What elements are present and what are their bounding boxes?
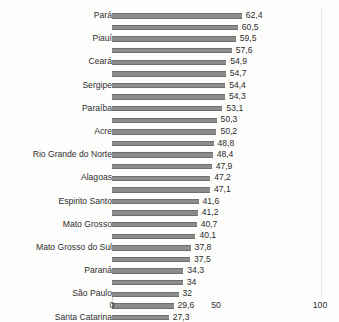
bar-fill [112, 36, 236, 41]
bar-category-label: Rio Grande do Norte [0, 149, 112, 161]
x-axis-tick-label: 50 [201, 300, 231, 310]
bar-fill [112, 106, 222, 111]
bar-row: Alagoas47,2 [0, 172, 339, 184]
bar-category-label: Paraíba [0, 103, 112, 115]
bar [112, 199, 199, 204]
bar-value-label: 37,5 [190, 254, 211, 266]
bar-value-label: 34 [183, 277, 197, 289]
bar-fill [112, 60, 226, 65]
bar [112, 106, 222, 111]
bar-value-label: 59,5 [236, 33, 257, 45]
chart-title [0, 0, 339, 5]
bar [112, 222, 197, 227]
bar-category-label: Espirito Santo [0, 196, 112, 208]
bar-row: Mato Grosso do Sul37,8 [0, 242, 339, 254]
bar [112, 13, 242, 18]
bar-category-label: Alagoas [0, 172, 112, 184]
bar-row: Espirito Santo41,6 [0, 196, 339, 208]
bar-category-label: São Paulo [0, 288, 112, 300]
bar-fill [112, 25, 238, 30]
bar [112, 83, 225, 88]
bar-value-label: 40,7 [197, 219, 218, 231]
bar-row: Paraíba53,1 [0, 103, 339, 115]
bar [112, 176, 210, 181]
x-axis-tick-label: 100 [305, 300, 335, 310]
bar-fill [112, 83, 225, 88]
bar-fill [112, 141, 214, 146]
bar-row: 60,5 [0, 22, 339, 34]
bar-row: 29,6 [0, 300, 339, 312]
bar-fill [112, 257, 190, 262]
bar-value-label: 47,2 [210, 172, 231, 184]
bar-row: 50,3 [0, 114, 339, 126]
bar-category-label: Sergipe [0, 80, 112, 92]
bar-fill [112, 118, 217, 123]
bar-value-label: 53,1 [222, 103, 243, 115]
bar-category-label: Ceará [0, 56, 112, 68]
bar-row: 57,6 [0, 45, 339, 57]
bar-row: Pará62,4 [0, 10, 339, 22]
bar [112, 129, 216, 134]
bar-row: Piauí59,5 [0, 33, 339, 45]
bar-row: 54,3 [0, 91, 339, 103]
bar [112, 152, 213, 157]
bar-fill [112, 268, 183, 273]
bar [112, 245, 191, 250]
bar-fill [112, 176, 210, 181]
bar-row: 48,8 [0, 138, 339, 150]
bar [112, 36, 236, 41]
bar-chart: Pará62,460,5Piauí59,557,6Ceará54,954,7Se… [0, 0, 339, 322]
bar [112, 292, 179, 297]
bar-fill [112, 48, 232, 53]
bar-value-label: 50,2 [216, 126, 237, 138]
bar-fill [112, 164, 212, 169]
bar-fill [112, 245, 191, 250]
bar [112, 164, 212, 169]
bar-fill [112, 210, 198, 215]
bar-value-label: 29,6 [174, 300, 195, 312]
bar-value-label: 40,1 [195, 230, 216, 242]
bar-value-label: 60,5 [238, 22, 259, 34]
bar-value-label: 50,3 [217, 114, 238, 126]
bar [112, 71, 226, 76]
bar-value-label: 62,4 [242, 10, 263, 22]
bar-value-label: 54,9 [226, 56, 247, 68]
bar-category-label: Santa Catarina [0, 312, 112, 322]
bar-fill [112, 315, 169, 320]
bar-value-label: 41,6 [199, 196, 220, 208]
bar [112, 60, 226, 65]
bar-value-label: 54,4 [225, 80, 246, 92]
bar-value-label: 32 [179, 288, 193, 300]
bar-value-label: 48,8 [214, 138, 235, 150]
bar-row: Ceará54,9 [0, 56, 339, 68]
x-axis-tick-label: 0 [97, 300, 127, 310]
bar-row: 34 [0, 277, 339, 289]
bar [112, 315, 169, 320]
bar-fill [112, 152, 213, 157]
bar [112, 210, 198, 215]
bar-fill [112, 129, 216, 134]
bar-category-label: Piauí [0, 33, 112, 45]
bar-fill [112, 222, 197, 227]
bar-row: Rio Grande do Norte48,4 [0, 149, 339, 161]
bar-row: Sergipe54,4 [0, 80, 339, 92]
bar-row: Mato Grosso40,7 [0, 219, 339, 231]
bar-fill [112, 94, 225, 99]
bar [112, 280, 183, 285]
bar-row: 40,1 [0, 230, 339, 242]
bar-category-label: Acre [0, 126, 112, 138]
bar-value-label: 47,1 [210, 184, 231, 196]
bar-fill [112, 292, 179, 297]
bar-value-label: 48,4 [213, 149, 234, 161]
bar-value-label: 41,2 [198, 207, 219, 219]
bar-row: São Paulo32 [0, 288, 339, 300]
bar-value-label: 27,3 [169, 312, 190, 322]
bar-category-label: Mato Grosso do Sul [0, 242, 112, 254]
bar [112, 257, 190, 262]
bar-value-label: 37,8 [191, 242, 212, 254]
bar-category-label: Mato Grosso [0, 219, 112, 231]
bar [112, 268, 183, 273]
bar-row: 47,9 [0, 161, 339, 173]
bar-value-label: 57,6 [232, 45, 253, 57]
bar-fill [112, 234, 195, 239]
